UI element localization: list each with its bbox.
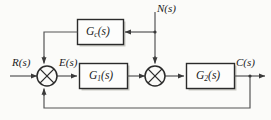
gc-block [78,20,124,45]
disturbance-tap-point [153,30,156,33]
g1-block [80,64,128,89]
g2-block [187,64,235,89]
feedback-tap-point [248,74,251,77]
block-diagram: Gc(s) G1(s) G2(s) R(s) E(s) N(s) C(s) [0,0,271,120]
compensator-feedforward-path [44,32,78,62]
diagram-canvas [0,0,271,120]
